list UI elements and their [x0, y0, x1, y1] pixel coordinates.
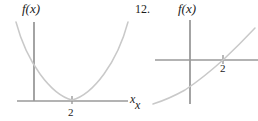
right-graph-svg	[135, 0, 258, 121]
figure-panel-right: 12. f(x) x 2	[135, 0, 258, 121]
exercise-number: 12.	[135, 3, 150, 15]
left-tick-label-2: 2	[68, 107, 74, 118]
right-fx-axis-label: f(x)	[178, 2, 196, 15]
left-curve-parabola	[16, 22, 128, 100]
right-x-axis-label: x	[135, 99, 140, 111]
figure-panel-left: f(x) x 2	[0, 0, 135, 121]
right-curve-increasing	[153, 28, 255, 104]
right-tick-label-2: 2	[220, 63, 226, 74]
left-fx-axis-label: f(x)	[22, 2, 40, 15]
figure-container: f(x) x 2 12. f(x) x 2	[0, 0, 258, 121]
left-graph-svg	[0, 0, 135, 121]
